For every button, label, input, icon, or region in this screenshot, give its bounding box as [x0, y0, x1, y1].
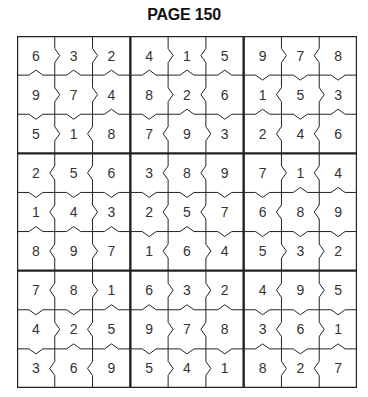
- cell-r1c3[interactable]: 2: [93, 36, 131, 75]
- cell-r2c8[interactable]: 5: [281, 75, 319, 114]
- cell-r4c3[interactable]: 6: [93, 153, 131, 192]
- cell-r3c5[interactable]: 9: [168, 114, 206, 153]
- cell-r5c3[interactable]: 3: [93, 192, 131, 231]
- cell-r6c7[interactable]: 5: [244, 232, 282, 271]
- cell-r9c6[interactable]: 1: [206, 349, 244, 388]
- cell-r8c7[interactable]: 3: [244, 310, 282, 349]
- cell-r2c4[interactable]: 8: [130, 75, 168, 114]
- cell-r7c1[interactable]: 7: [17, 271, 55, 310]
- cell-r7c7[interactable]: 4: [244, 271, 282, 310]
- cell-r3c4[interactable]: 7: [130, 114, 168, 153]
- cell-r5c9[interactable]: 9: [319, 192, 357, 231]
- cell-r7c6[interactable]: 2: [206, 271, 244, 310]
- cell-r4c9[interactable]: 4: [319, 153, 357, 192]
- cell-r6c5[interactable]: 6: [168, 232, 206, 271]
- cell-r1c1[interactable]: 6: [17, 36, 55, 75]
- cell-r2c2[interactable]: 7: [55, 75, 93, 114]
- cell-grid: 6324159789748261535187932462563897141432…: [17, 36, 357, 388]
- cell-r8c8[interactable]: 6: [281, 310, 319, 349]
- cell-r6c6[interactable]: 4: [206, 232, 244, 271]
- cell-r1c7[interactable]: 9: [244, 36, 282, 75]
- cell-r7c8[interactable]: 9: [281, 271, 319, 310]
- cell-r2c3[interactable]: 4: [93, 75, 131, 114]
- cell-r4c7[interactable]: 7: [244, 153, 282, 192]
- cell-r8c9[interactable]: 1: [319, 310, 357, 349]
- cell-r5c1[interactable]: 1: [17, 192, 55, 231]
- cell-r9c3[interactable]: 9: [93, 349, 131, 388]
- cell-r8c6[interactable]: 8: [206, 310, 244, 349]
- cell-r7c5[interactable]: 3: [168, 271, 206, 310]
- cell-r2c1[interactable]: 9: [17, 75, 55, 114]
- cell-r4c6[interactable]: 9: [206, 153, 244, 192]
- sudoku-board: 6324159789748261535187932462563897141432…: [17, 36, 357, 388]
- cell-r1c4[interactable]: 4: [130, 36, 168, 75]
- cell-r7c9[interactable]: 5: [319, 271, 357, 310]
- cell-r2c6[interactable]: 6: [206, 75, 244, 114]
- cell-r1c5[interactable]: 1: [168, 36, 206, 75]
- cell-r8c4[interactable]: 9: [130, 310, 168, 349]
- cell-r2c9[interactable]: 3: [319, 75, 357, 114]
- cell-r7c3[interactable]: 1: [93, 271, 131, 310]
- cell-r9c7[interactable]: 8: [244, 349, 282, 388]
- cell-r5c2[interactable]: 4: [55, 192, 93, 231]
- cell-r9c8[interactable]: 2: [281, 349, 319, 388]
- cell-r6c8[interactable]: 3: [281, 232, 319, 271]
- cell-r8c5[interactable]: 7: [168, 310, 206, 349]
- cell-r6c3[interactable]: 7: [93, 232, 131, 271]
- cell-r8c2[interactable]: 2: [55, 310, 93, 349]
- page-title: PAGE 150: [0, 6, 368, 24]
- cell-r7c2[interactable]: 8: [55, 271, 93, 310]
- cell-r1c2[interactable]: 3: [55, 36, 93, 75]
- cell-r5c4[interactable]: 2: [130, 192, 168, 231]
- cell-r8c3[interactable]: 5: [93, 310, 131, 349]
- cell-r5c5[interactable]: 5: [168, 192, 206, 231]
- cell-r6c9[interactable]: 2: [319, 232, 357, 271]
- cell-r3c9[interactable]: 6: [319, 114, 357, 153]
- cell-r6c4[interactable]: 1: [130, 232, 168, 271]
- cell-r3c2[interactable]: 1: [55, 114, 93, 153]
- cell-r4c5[interactable]: 8: [168, 153, 206, 192]
- cell-r5c7[interactable]: 6: [244, 192, 282, 231]
- cell-r9c4[interactable]: 5: [130, 349, 168, 388]
- cell-r5c8[interactable]: 8: [281, 192, 319, 231]
- cell-r9c2[interactable]: 6: [55, 349, 93, 388]
- cell-r4c2[interactable]: 5: [55, 153, 93, 192]
- cell-r2c5[interactable]: 2: [168, 75, 206, 114]
- cell-r6c2[interactable]: 9: [55, 232, 93, 271]
- cell-r4c8[interactable]: 1: [281, 153, 319, 192]
- cell-r2c7[interactable]: 1: [244, 75, 282, 114]
- cell-r5c6[interactable]: 7: [206, 192, 244, 231]
- cell-r3c1[interactable]: 5: [17, 114, 55, 153]
- cell-r3c3[interactable]: 8: [93, 114, 131, 153]
- cell-r9c9[interactable]: 7: [319, 349, 357, 388]
- cell-r9c1[interactable]: 3: [17, 349, 55, 388]
- cell-r9c5[interactable]: 4: [168, 349, 206, 388]
- cell-r3c6[interactable]: 3: [206, 114, 244, 153]
- cell-r3c8[interactable]: 4: [281, 114, 319, 153]
- cell-r1c6[interactable]: 5: [206, 36, 244, 75]
- cell-r4c1[interactable]: 2: [17, 153, 55, 192]
- cell-r4c4[interactable]: 3: [130, 153, 168, 192]
- cell-r7c4[interactable]: 6: [130, 271, 168, 310]
- cell-r1c9[interactable]: 8: [319, 36, 357, 75]
- cell-r8c1[interactable]: 4: [17, 310, 55, 349]
- cell-r1c8[interactable]: 7: [281, 36, 319, 75]
- cell-r6c1[interactable]: 8: [17, 232, 55, 271]
- cell-r3c7[interactable]: 2: [244, 114, 282, 153]
